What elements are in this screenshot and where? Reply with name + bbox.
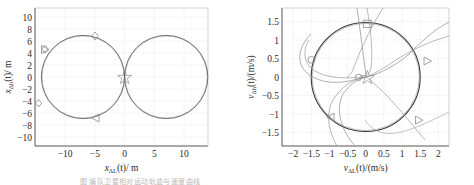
x-axis-rest: (t)/ m [117, 163, 139, 174]
ytick-10: 10 [23, 13, 33, 23]
position-grid [35, 8, 208, 146]
svg-text:xΔh(t)/ m: xΔh(t)/ m [3, 60, 14, 95]
position-y-axis-label: xΔh(t)/ m [3, 60, 14, 95]
vy-axis-rest: (t)/(m/s) [246, 55, 257, 87]
marker-triangle-right-upper [424, 57, 432, 65]
vx-tick-6: 1 [400, 149, 405, 159]
x-axis-sub: ΔL [109, 167, 117, 174]
vy-tick-6: 1.5 [267, 17, 279, 27]
vy-tick-1: −1 [269, 110, 279, 120]
svg-text:vΔh(t)/(m/s): vΔh(t)/(m/s) [246, 55, 257, 98]
ytick-7: 4 [27, 49, 32, 59]
vy-tick-0: −1.5 [262, 128, 279, 138]
velocity-plot-panel: −2 −1.5 −1 −0.5 0 0.5 1 1.5 2 1.5 1 0.5 … [237, 0, 474, 185]
xtick-1: −5 [90, 149, 100, 159]
xtick-3: 5 [152, 149, 157, 159]
vx-tick-2: −1 [324, 149, 334, 159]
position-y-tick-labels: 10 8 6 4 2 0 −2 −4 −6 −8 −10 [17, 13, 32, 143]
position-plot-panel: −10 −5 0 5 10 10 8 6 4 2 0 −2 −4 −6 −8 −… [0, 0, 237, 185]
vx-axis-sub: ΔL [348, 167, 356, 174]
ytick-3: −4 [22, 97, 32, 107]
vy-tick-3: 0 [274, 73, 279, 83]
vx-tick-0: −2 [288, 149, 298, 159]
ytick-4: −2 [22, 85, 32, 95]
vy-tick-2: −0.5 [262, 91, 279, 101]
ytick-9: 8 [27, 25, 32, 35]
velocity-x-axis-label: vΔL(t)/(m/s) [344, 163, 388, 174]
position-plot-svg: −10 −5 0 5 10 10 8 6 4 2 0 −2 −4 −6 −8 −… [0, 0, 237, 185]
position-x-tick-labels: −10 −5 0 5 10 [58, 149, 189, 159]
velocity-x-tick-labels: −2 −1.5 −1 −0.5 0 0.5 1 1.5 2 [288, 149, 441, 159]
y-axis-rest: (t)/ m [3, 60, 14, 82]
velocity-y-tick-labels: 1.5 1 0.5 0 −0.5 −1 −1.5 [262, 17, 279, 138]
ytick-1: −8 [22, 121, 32, 131]
vx-tick-8: 2 [436, 149, 441, 159]
svg-text:vΔL(t)/(m/s): vΔL(t)/(m/s) [344, 163, 388, 174]
vx-axis-rest: (t)/(m/s) [356, 163, 388, 174]
vx-tick-1: −1.5 [303, 149, 320, 159]
vy-tick-4: 0.5 [267, 54, 279, 64]
figure-caption: 图 编队卫星相对运动轨迹与速度曲线 [0, 176, 280, 185]
xtick-4: 10 [179, 149, 189, 159]
vx-tick-3: −0.5 [339, 149, 356, 159]
ytick-0: −10 [17, 133, 32, 143]
velocity-plot-svg: −2 −1.5 −1 −0.5 0 0.5 1 1.5 2 1.5 1 0.5 … [237, 0, 474, 185]
ytick-6: 2 [27, 61, 32, 71]
figure-container: −10 −5 0 5 10 10 8 6 4 2 0 −2 −4 −6 −8 −… [0, 0, 474, 185]
ytick-2: −6 [22, 109, 32, 119]
ytick-5: 0 [27, 73, 32, 83]
position-x-axis-label: xΔL(t)/ m [104, 163, 139, 174]
xtick-2: 0 [122, 149, 127, 159]
velocity-markers [308, 20, 432, 124]
vx-tick-7: 1.5 [414, 149, 426, 159]
xtick-0: −10 [58, 149, 73, 159]
velocity-y-axis-label: vΔh(t)/(m/s) [246, 55, 257, 98]
marker-diamond-lower-left [36, 99, 42, 107]
svg-text:xΔL(t)/ m: xΔL(t)/ m [104, 163, 139, 174]
vx-tick-4: 0 [363, 149, 368, 159]
vy-tick-5: 1 [274, 36, 279, 46]
marker-triangle-bottom-right [416, 116, 424, 124]
vx-tick-5: 0.5 [378, 149, 390, 159]
ytick-8: 6 [27, 37, 32, 47]
